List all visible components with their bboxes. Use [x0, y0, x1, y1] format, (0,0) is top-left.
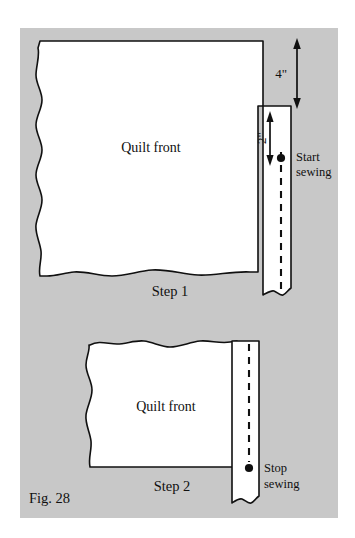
- step-1-quilt-front-shape: [36, 41, 263, 276]
- four-inch-label: 4": [275, 66, 287, 81]
- start-sewing-label-line2: sewing: [296, 165, 332, 179]
- step-1-quilt-front-label: Quilt front: [121, 140, 181, 155]
- two-inch-label: 2": [254, 132, 269, 144]
- figure-caption: Fig. 28: [29, 490, 70, 506]
- step-2-label: Step 2: [154, 478, 191, 494]
- stop-sewing-dot: [245, 464, 253, 472]
- start-sewing-label-line1: Start: [296, 150, 320, 164]
- quilt-binding-diagram: 4" 2" Start sewing Step 1 Quilt front: [0, 0, 355, 538]
- step-2-binding-strip: [232, 341, 259, 503]
- step-1-label: Step 1: [152, 283, 189, 299]
- figure-container: 4" 2" Start sewing Step 1 Quilt front: [0, 0, 355, 538]
- start-sewing-dot: [277, 154, 285, 162]
- step-2-quilt-front-label: Quilt front: [136, 399, 196, 414]
- stop-sewing-label-line2: sewing: [264, 477, 300, 491]
- stop-sewing-label-line1: Stop: [264, 461, 287, 475]
